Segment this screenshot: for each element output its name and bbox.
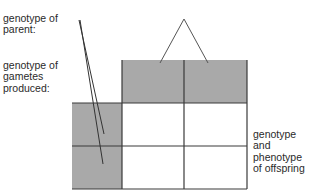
offspring-cell-1 — [122, 103, 184, 146]
offspring-cell-2 — [184, 103, 247, 146]
offspring-cell-4 — [184, 146, 247, 189]
offspring-cell-3 — [122, 146, 184, 189]
top-parent-branch-lines — [160, 19, 208, 63]
punnett-square-diagram — [0, 0, 316, 191]
top-gamete-cell-1 — [122, 60, 184, 103]
left-gamete-cell-2 — [72, 146, 122, 189]
top-gamete-cell-2 — [184, 60, 247, 103]
